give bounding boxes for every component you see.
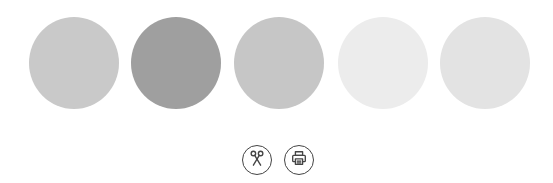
print-button[interactable]	[284, 145, 314, 175]
color-swatch-4[interactable]	[338, 17, 428, 109]
printer-icon	[290, 149, 308, 171]
color-swatch-5[interactable]	[440, 17, 530, 109]
color-swatch-3[interactable]	[234, 17, 324, 109]
scissors-icon	[248, 149, 266, 171]
color-swatch-2[interactable]	[131, 17, 221, 109]
cut-button[interactable]	[242, 145, 272, 175]
color-swatch-1[interactable]	[29, 17, 119, 109]
